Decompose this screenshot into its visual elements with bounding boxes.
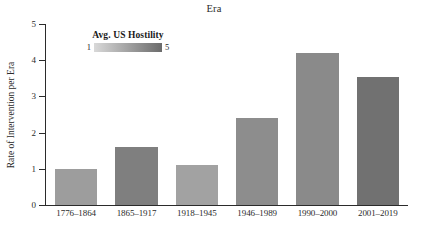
y-tick-label: 0 [22, 200, 36, 210]
y-axis-title: Rate of Intervention per Era [6, 62, 16, 169]
bar-slot [227, 24, 287, 205]
legend-max-label: 5 [165, 42, 169, 52]
legend-gradient-bar [94, 43, 162, 52]
y-tick-mark [39, 133, 45, 134]
bar[interactable] [115, 147, 157, 205]
y-tick-label: 2 [22, 128, 36, 138]
y-tick-mark [39, 205, 45, 206]
bar-chart: Era 012345 Rate of Intervention per Era … [0, 0, 428, 249]
x-axis-tick-labels: 1776–18641865–19171918–19451946–19891990… [46, 208, 408, 218]
y-tick-label: 4 [22, 55, 36, 65]
y-tick-mark [39, 24, 45, 25]
legend-min-label: 1 [87, 42, 91, 52]
bar[interactable] [357, 77, 399, 206]
x-tick-label: 1865–1917 [106, 208, 166, 218]
bar[interactable] [55, 169, 97, 205]
legend: Avg. US Hostility 1 5 [68, 30, 188, 52]
x-tick-label: 1990–2000 [287, 208, 347, 218]
bar[interactable] [176, 165, 218, 205]
y-tick-mark [39, 96, 45, 97]
x-tick-label: 1946–1989 [227, 208, 287, 218]
chart-title: Era [0, 3, 428, 14]
x-tick-label: 2001–2019 [348, 208, 408, 218]
bar-slot [348, 24, 408, 205]
y-tick-label: 1 [22, 164, 36, 174]
bar[interactable] [236, 118, 278, 205]
y-tick-label: 3 [22, 91, 36, 101]
y-axis-title-holder: Rate of Intervention per Era [12, 24, 13, 206]
y-tick-label: 5 [22, 19, 36, 29]
x-tick-label: 1776–1864 [46, 208, 106, 218]
legend-scale: 1 5 [68, 42, 188, 52]
y-tick-mark [39, 60, 45, 61]
x-tick-label: 1918–1945 [167, 208, 227, 218]
bar-slot [287, 24, 347, 205]
legend-title: Avg. US Hostility [68, 30, 188, 40]
x-axis-line [45, 205, 408, 206]
bar[interactable] [296, 53, 338, 205]
y-tick-mark [39, 169, 45, 170]
